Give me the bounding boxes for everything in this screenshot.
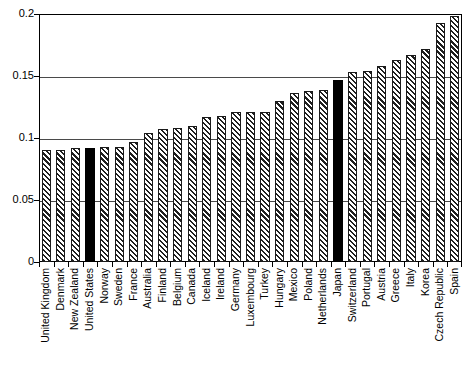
bar-hungary	[275, 101, 284, 262]
bar-finland	[158, 129, 167, 262]
bar-austria	[377, 66, 386, 262]
bar-series	[39, 14, 462, 262]
bar-luxembourg	[246, 112, 255, 262]
bar-new-zealand	[71, 148, 80, 262]
x-tick-mark	[199, 262, 200, 267]
bar-turkey	[260, 112, 269, 262]
bar-portugal	[363, 71, 372, 262]
x-tick-label: Czech Republic	[434, 268, 445, 342]
x-tick-mark	[272, 262, 273, 267]
x-tick-mark	[461, 262, 462, 267]
x-tick-mark	[185, 262, 186, 267]
x-tick-mark	[127, 262, 128, 267]
x-tick-mark	[447, 262, 448, 267]
x-tick-label: Korea	[420, 268, 431, 296]
x-tick-mark	[229, 262, 230, 267]
x-tick-mark	[243, 262, 244, 267]
x-tick-mark	[360, 262, 361, 267]
x-tick-label: Turkey	[259, 268, 270, 300]
x-tick-label: Sweden	[113, 268, 124, 306]
x-tick-label: Norway	[99, 268, 110, 304]
x-tick-label: Canada	[186, 268, 197, 305]
x-tick-label: Luxembourg	[245, 268, 256, 326]
bar-japan	[333, 80, 342, 262]
bar-united-kingdom	[42, 150, 51, 262]
x-tick-mark	[302, 262, 303, 267]
bar-switzerland	[348, 72, 357, 262]
x-tick-mark	[170, 262, 171, 267]
bar-iceland	[202, 117, 211, 262]
y-tick-label: 0.2	[0, 8, 34, 19]
x-tick-label: Belgium	[172, 268, 183, 306]
x-tick-label: Greece	[390, 268, 401, 302]
bar-ireland	[217, 116, 226, 262]
x-tick-label: Japan	[332, 268, 343, 297]
x-tick-mark	[433, 262, 434, 267]
x-tick-mark	[83, 262, 84, 267]
x-tick-label: Spain	[449, 268, 460, 295]
x-tick-mark	[214, 262, 215, 267]
y-tick-label: 0.05	[0, 194, 34, 205]
bar-mexico	[290, 93, 299, 262]
bar-canada	[188, 126, 197, 262]
bar-sweden	[115, 147, 124, 262]
y-tick-label: 0.15	[0, 70, 34, 81]
x-tick-label: Mexico	[288, 268, 299, 301]
x-tick-mark	[68, 262, 69, 267]
x-tick-label: Ireland	[215, 268, 226, 300]
bar-chart: 00.050.10.150.2 United KingdomDenmarkNew…	[0, 0, 476, 369]
x-tick-label: United States	[84, 268, 95, 331]
bar-spain	[450, 16, 459, 262]
x-tick-label: Germany	[230, 268, 241, 311]
x-tick-label: Iceland	[201, 268, 212, 302]
x-tick-label: New Zealand	[69, 268, 80, 330]
x-tick-mark	[39, 262, 40, 267]
bar-denmark	[56, 150, 65, 262]
x-tick-label: Poland	[303, 268, 314, 301]
bar-greece	[392, 60, 401, 262]
bar-united-states	[85, 148, 94, 262]
bar-belgium	[173, 128, 182, 262]
x-tick-label: Hungary	[274, 268, 285, 308]
x-tick-mark	[258, 262, 259, 267]
x-tick-label: United Kingdom	[40, 268, 51, 343]
x-tick-mark	[141, 262, 142, 267]
bar-poland	[304, 91, 313, 262]
x-tick-mark	[156, 262, 157, 267]
bar-netherlands	[319, 90, 328, 262]
x-tick-mark	[287, 262, 288, 267]
bar-australia	[144, 133, 153, 262]
x-axis-labels: United KingdomDenmarkNew ZealandUnited S…	[39, 268, 462, 366]
x-tick-mark	[389, 262, 390, 267]
x-tick-mark	[54, 262, 55, 267]
x-tick-label: Switzerland	[347, 268, 358, 322]
bar-italy	[406, 55, 415, 262]
x-tick-mark	[112, 262, 113, 267]
x-tick-label: Finland	[157, 268, 168, 302]
y-tick-label: 0	[0, 256, 34, 267]
x-tick-mark	[345, 262, 346, 267]
x-tick-label: Austria	[376, 268, 387, 301]
x-tick-label: Australia	[142, 268, 153, 309]
x-tick-label: Portugal	[361, 268, 372, 307]
y-tick-label: 0.1	[0, 132, 34, 143]
x-tick-label: Italy	[405, 268, 416, 287]
bar-norway	[100, 147, 109, 262]
x-tick-label: France	[128, 268, 139, 301]
bar-czech-republic	[436, 23, 445, 262]
bar-germany	[231, 112, 240, 262]
x-tick-mark	[374, 262, 375, 267]
x-tick-label: Denmark	[55, 268, 66, 311]
x-tick-mark	[97, 262, 98, 267]
x-tick-mark	[404, 262, 405, 267]
x-axis-tickmarks	[39, 262, 462, 267]
bar-france	[129, 142, 138, 262]
x-tick-label: Netherlands	[317, 268, 328, 325]
x-tick-mark	[418, 262, 419, 267]
bar-korea	[421, 49, 430, 262]
x-tick-mark	[331, 262, 332, 267]
x-tick-mark	[316, 262, 317, 267]
